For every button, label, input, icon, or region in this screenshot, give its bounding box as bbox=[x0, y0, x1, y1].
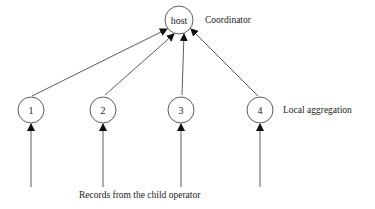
local-node-3: 3 bbox=[168, 97, 194, 123]
local-node-1: 1 bbox=[18, 97, 44, 123]
local-aggregation-caption: Local aggregation bbox=[283, 105, 352, 115]
node-label: 2 bbox=[101, 105, 106, 116]
host-node: host bbox=[165, 6, 193, 34]
input-caption: Records from the child operator bbox=[79, 190, 201, 200]
input-arrows bbox=[31, 124, 260, 187]
edges-to-host bbox=[32, 29, 258, 96]
coordinator-caption: Coordinator bbox=[205, 15, 252, 25]
local-node-4: 4 bbox=[247, 97, 273, 123]
node-label: 4 bbox=[258, 105, 263, 116]
host-label: host bbox=[171, 15, 188, 26]
node-label: 3 bbox=[179, 105, 184, 116]
aggregation-diagram: host Coordinator 1 2 3 4 Local aggregati… bbox=[0, 0, 375, 209]
local-node-2: 2 bbox=[90, 97, 116, 123]
node-label: 1 bbox=[29, 105, 34, 116]
